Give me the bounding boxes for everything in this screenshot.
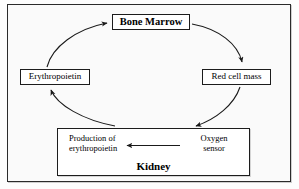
node-erythropoietin-label: Erythropoietin xyxy=(29,72,82,81)
kidney-oxygen-sensor-label: Oxygen sensor xyxy=(188,133,240,154)
node-bone-marrow-label: Bone Marrow xyxy=(120,16,183,27)
node-red-cell-mass[interactable]: Red cell mass xyxy=(202,69,271,85)
kidney-sensor-line1: Oxygen xyxy=(188,133,240,143)
diagram-canvas: Bone Marrow Erythropoietin Red cell mass… xyxy=(0,0,299,189)
node-red-cell-mass-label: Red cell mass xyxy=(212,72,262,81)
node-kidney[interactable]: Production of erythropoietin Oxygen sens… xyxy=(57,128,250,176)
node-bone-marrow[interactable]: Bone Marrow xyxy=(112,14,190,30)
edge-oxygen-sensor-to-production xyxy=(123,141,181,150)
kidney-production-label: Production of erythropoietin xyxy=(69,133,117,154)
node-erythropoietin[interactable]: Erythropoietin xyxy=(20,69,90,85)
kidney-production-line2: erythropoietin xyxy=(69,143,117,153)
kidney-sensor-line2: sensor xyxy=(188,143,240,153)
kidney-title: Kidney xyxy=(58,160,249,172)
kidney-production-line1: Production of xyxy=(69,133,117,143)
